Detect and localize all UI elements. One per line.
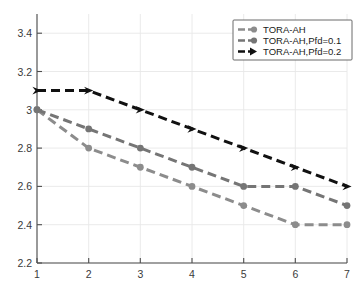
x-tick-label: 4	[189, 268, 195, 280]
data-point-marker	[189, 183, 196, 190]
y-tick-label: 2.4	[17, 219, 32, 231]
legend-marker-circle-icon	[251, 37, 257, 43]
data-point-marker	[189, 164, 196, 171]
data-point-marker	[34, 106, 41, 113]
data-point-marker	[344, 221, 351, 228]
y-axis-tick-labels: 2.2 2.4 2.6 2.8 3 3.2 3.4	[17, 27, 32, 269]
x-tick-label: 6	[292, 268, 298, 280]
data-point-marker	[240, 202, 247, 209]
y-tick-label: 2.8	[17, 142, 32, 154]
legend-marker-circle-icon	[251, 26, 257, 32]
y-tick-label: 3	[26, 104, 32, 116]
legend-label: TORA-AH,Pfd=0.1	[263, 35, 341, 46]
x-tick-label: 2	[86, 268, 92, 280]
x-tick-label: 3	[137, 268, 143, 280]
data-point-marker	[292, 221, 299, 228]
data-point-marker	[344, 202, 351, 209]
chart-figure: 2.2 2.4 2.6 2.8 3 3.2 3.4 1 2 3 4 5 6 7	[0, 0, 361, 293]
chart-legend[interactable]: TORA-AH TORA-AH,Pfd=0.1 TORA-AH,Pfd=0.2	[233, 20, 352, 60]
legend-label: TORA-AH,Pfd=0.2	[263, 46, 341, 57]
legend-label: TORA-AH	[263, 24, 306, 35]
data-point-marker	[137, 145, 144, 152]
y-tick-label: 3.4	[17, 27, 32, 39]
data-point-marker	[85, 126, 92, 133]
y-tick-label: 3.2	[17, 66, 32, 78]
y-tick-label: 2.2	[17, 257, 32, 269]
line-chart: 2.2 2.4 2.6 2.8 3 3.2 3.4 1 2 3 4 5 6 7	[0, 0, 361, 293]
x-tick-label: 5	[241, 268, 247, 280]
data-point-marker	[240, 183, 247, 190]
y-tick-label: 2.6	[17, 180, 32, 192]
data-point-marker	[292, 183, 299, 190]
x-tick-label: 7	[344, 268, 350, 280]
data-point-marker	[137, 164, 144, 171]
data-point-marker	[85, 145, 92, 152]
x-axis-tick-labels: 1 2 3 4 5 6 7	[34, 268, 350, 280]
x-tick-label: 1	[34, 268, 40, 280]
